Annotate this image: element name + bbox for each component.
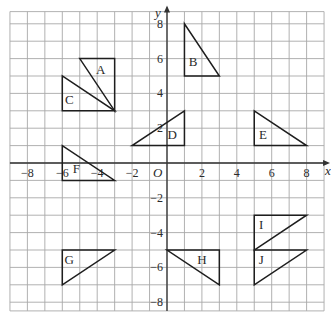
y-tick-label: −4 (150, 226, 163, 240)
y-tick-label: 4 (157, 86, 163, 100)
triangle-label: A (96, 62, 106, 77)
x-tick-label: 8 (304, 166, 310, 180)
y-tick-label: 8 (157, 17, 163, 31)
triangle-label: F (73, 161, 80, 176)
triangle-label: G (65, 252, 74, 267)
triangle-label: B (189, 54, 198, 69)
y-tick-label: 6 (157, 52, 163, 66)
y-tick-label: −2 (150, 191, 163, 205)
triangle-label: E (259, 127, 267, 142)
x-tick-label: −2 (126, 166, 139, 180)
x-tick-label: −8 (21, 166, 34, 180)
coordinate-plane: x y O −8−6−4−224688642−2−4−6−8 ABCDEFGHI… (0, 0, 331, 319)
triangle-label: D (168, 127, 177, 142)
y-axis-arrow-icon (164, 6, 170, 13)
x-axis-label: x (324, 163, 331, 178)
triangle-label: H (197, 252, 206, 267)
triangle-label: I (259, 217, 263, 232)
x-tick-label: 6 (269, 166, 275, 180)
origin-label: O (153, 165, 163, 180)
y-tick-label: −6 (150, 260, 163, 274)
triangle-label: C (65, 92, 74, 107)
x-tick-label: 2 (199, 166, 205, 180)
y-tick-label: −8 (150, 295, 163, 309)
x-tick-label: 4 (234, 166, 240, 180)
triangle-label: J (259, 252, 264, 267)
coordinate-grid-figure: x y O −8−6−4−224688642−2−4−6−8 ABCDEFGHI… (0, 0, 331, 319)
